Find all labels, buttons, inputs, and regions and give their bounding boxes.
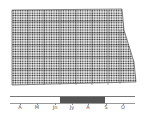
state-outline [12,9,136,85]
month-label: A [86,104,89,110]
highlighted-period [60,97,105,103]
month-label: Jy [70,104,74,110]
month-label: S [104,104,107,110]
month-label: M [35,104,39,110]
county-map [0,0,145,90]
month-label: Jn [53,104,58,110]
month-label: O [121,104,125,110]
month-label: A [18,104,21,110]
